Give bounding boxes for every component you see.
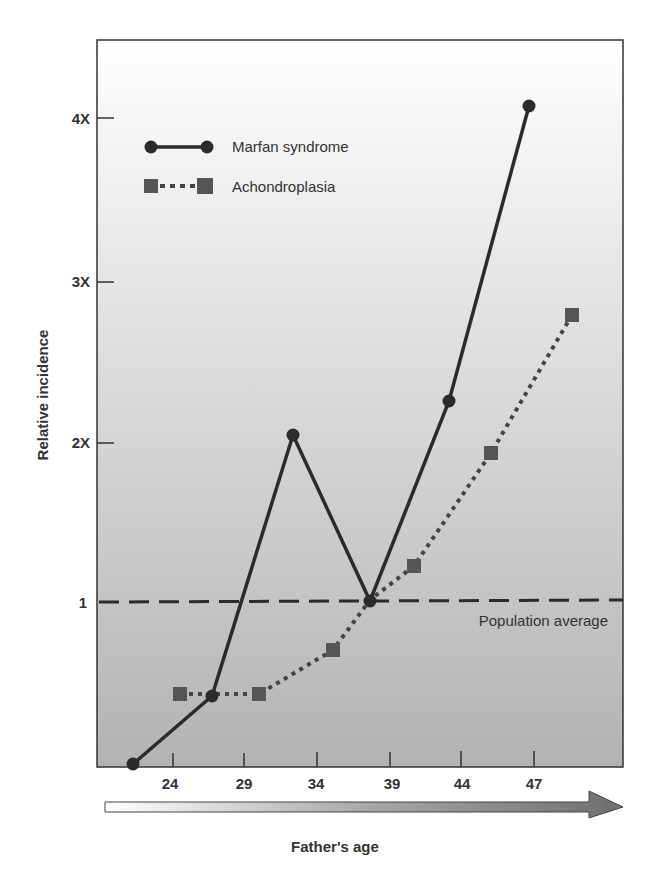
legend-label-marfan: Marfan syndrome bbox=[232, 138, 349, 155]
age-arrow bbox=[105, 791, 623, 818]
y-tick-label: 1 bbox=[79, 594, 87, 611]
x-axis-title: Father's age bbox=[291, 838, 379, 855]
population-average-label: Population average bbox=[479, 612, 608, 629]
y-axis-title: Relative incidence bbox=[34, 330, 51, 461]
legend-circle-icon bbox=[201, 141, 214, 154]
x-tick-label: 39 bbox=[384, 775, 401, 792]
x-tick-label: 44 bbox=[454, 775, 471, 792]
marfan-marker bbox=[127, 758, 140, 771]
achondroplasia-marker bbox=[173, 687, 187, 701]
achondroplasia-marker bbox=[326, 643, 340, 657]
marfan-marker bbox=[206, 690, 219, 703]
x-tick-label: 47 bbox=[526, 775, 543, 792]
marfan-marker bbox=[287, 429, 300, 442]
achondroplasia-marker bbox=[484, 446, 498, 460]
achondroplasia-marker bbox=[407, 559, 421, 573]
y-tick-label: 4X bbox=[72, 110, 90, 127]
y-tick-label: 3X bbox=[72, 273, 90, 290]
chart-figure: 1 2X 3X 4X Relative incidence 24 29 34 3… bbox=[0, 0, 651, 877]
y-tick-label: 2X bbox=[72, 434, 90, 451]
plot-area bbox=[97, 40, 623, 767]
x-tick-label: 34 bbox=[308, 775, 325, 792]
achondroplasia-marker bbox=[252, 687, 266, 701]
legend-square-icon bbox=[197, 178, 213, 194]
marfan-marker bbox=[364, 595, 377, 608]
y-tick-labels: 1 2X 3X 4X bbox=[72, 110, 90, 611]
x-tick-label: 24 bbox=[162, 775, 179, 792]
marfan-marker bbox=[443, 395, 456, 408]
x-tick-labels: 24 29 34 39 44 47 bbox=[162, 775, 543, 792]
marfan-marker bbox=[523, 100, 536, 113]
legend-circle-icon bbox=[145, 141, 158, 154]
legend-label-achondroplasia: Achondroplasia bbox=[232, 178, 336, 195]
x-tick-label: 29 bbox=[236, 775, 253, 792]
achondroplasia-marker bbox=[565, 308, 579, 322]
legend-square-icon bbox=[144, 179, 158, 193]
